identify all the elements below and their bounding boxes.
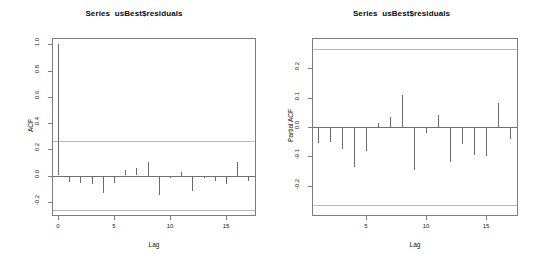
pacf-x-tick-mark bbox=[426, 216, 427, 220]
acf-x-tick-mark bbox=[170, 216, 171, 220]
acf-plot-title: Series usBest$residuals bbox=[0, 9, 268, 18]
pacf-x-tick-label: 15 bbox=[478, 223, 494, 229]
pacf-bar bbox=[462, 127, 463, 144]
pacf-bar bbox=[414, 127, 415, 170]
pacf-bar bbox=[330, 127, 331, 142]
figure-canvas: Series usBest$residuals Lag ACF 1.00.80.… bbox=[0, 0, 535, 272]
pacf-y-tick-label: -0.1 bbox=[294, 147, 300, 161]
pacf-bar bbox=[378, 123, 379, 127]
acf-y-tick-mark bbox=[48, 149, 52, 150]
pacf-bar bbox=[438, 115, 439, 127]
acf-bar bbox=[58, 44, 59, 175]
acf-x-tick-mark bbox=[226, 216, 227, 220]
acf-x-axis-title: Lag bbox=[134, 241, 174, 248]
acf-bar bbox=[237, 162, 238, 176]
acf-x-tick-label: 15 bbox=[218, 223, 234, 229]
pacf-x-tick-mark bbox=[486, 216, 487, 220]
acf-x-tick-mark bbox=[114, 216, 115, 220]
acf-bar bbox=[114, 176, 115, 183]
pacf-y-tick-label: 0.2 bbox=[294, 59, 300, 73]
acf-y-tick-label: 0.8 bbox=[34, 62, 40, 76]
acf-y-tick-mark bbox=[48, 176, 52, 177]
pacf-bar bbox=[342, 127, 343, 149]
acf-x-tick-label: 5 bbox=[106, 223, 122, 229]
acf-bar bbox=[204, 176, 205, 178]
acf-y-axis-title: ACF bbox=[27, 104, 34, 148]
acf-plot-panel: Series usBest$residuals Lag ACF 1.00.80.… bbox=[0, 0, 268, 272]
acf-bar bbox=[226, 176, 227, 184]
pacf-y-tick-label: 0.0 bbox=[294, 118, 300, 132]
acf-y-tick-label: 0.0 bbox=[34, 167, 40, 181]
pacf-y-tick-label: 0.1 bbox=[294, 89, 300, 103]
pacf-y-axis-title: Partial ACF bbox=[287, 104, 294, 148]
pacf-bar bbox=[486, 127, 487, 156]
pacf-plot-panel: Series usBest$residuals Lag Partial ACF … bbox=[268, 0, 535, 272]
acf-bar bbox=[136, 168, 137, 175]
acf-y-tick-mark bbox=[48, 71, 52, 72]
acf-bar bbox=[148, 162, 149, 176]
pacf-bar bbox=[474, 127, 475, 155]
pacf-y-tick-label: -0.2 bbox=[294, 177, 300, 191]
pacf-bar bbox=[510, 127, 511, 139]
acf-confidence-band-upper bbox=[53, 141, 255, 142]
acf-x-tick-label: 10 bbox=[162, 223, 178, 229]
acf-y-tick-label: 1.0 bbox=[34, 35, 40, 49]
acf-x-tick-mark bbox=[58, 216, 59, 220]
acf-bar bbox=[103, 176, 104, 193]
pacf-y-tick-mark bbox=[308, 127, 312, 128]
pacf-x-axis-title: Lag bbox=[395, 241, 435, 248]
pacf-y-tick-mark bbox=[308, 186, 312, 187]
pacf-y-tick-mark bbox=[308, 156, 312, 157]
pacf-x-tick-mark bbox=[366, 216, 367, 220]
acf-y-tick-mark bbox=[48, 202, 52, 203]
acf-bar bbox=[215, 176, 216, 181]
acf-bar bbox=[125, 170, 126, 175]
acf-y-tick-label: 0.2 bbox=[34, 140, 40, 154]
pacf-plot-title: Series usBest$residuals bbox=[268, 9, 535, 18]
acf-bar bbox=[170, 176, 171, 178]
acf-plot-area bbox=[53, 39, 255, 215]
acf-bar bbox=[159, 176, 160, 195]
acf-y-tick-label: 0.6 bbox=[34, 88, 40, 102]
acf-y-tick-mark bbox=[48, 97, 52, 98]
pacf-bar bbox=[366, 127, 367, 151]
acf-y-tick-mark bbox=[48, 44, 52, 45]
pacf-plot-area bbox=[313, 39, 517, 215]
acf-bar bbox=[80, 176, 81, 183]
pacf-bar bbox=[498, 103, 499, 127]
pacf-bar bbox=[450, 127, 451, 162]
acf-bar bbox=[92, 176, 93, 184]
acf-y-tick-mark bbox=[48, 123, 52, 124]
pacf-confidence-band-upper bbox=[313, 49, 517, 50]
pacf-y-tick-mark bbox=[308, 98, 312, 99]
pacf-confidence-band-lower bbox=[313, 205, 517, 206]
acf-bar bbox=[248, 176, 249, 181]
acf-bar bbox=[192, 176, 193, 191]
acf-bar bbox=[69, 176, 70, 182]
pacf-y-tick-mark bbox=[308, 68, 312, 69]
acf-y-tick-label: 0.4 bbox=[34, 114, 40, 128]
acf-bar bbox=[181, 172, 182, 176]
pacf-x-tick-label: 5 bbox=[358, 223, 374, 229]
pacf-bar bbox=[390, 117, 391, 127]
acf-y-tick-label: -0.2 bbox=[34, 193, 40, 207]
acf-x-tick-label: 0 bbox=[50, 223, 66, 229]
pacf-bar bbox=[402, 95, 403, 127]
pacf-x-tick-label: 10 bbox=[418, 223, 434, 229]
acf-confidence-band-lower bbox=[53, 210, 255, 211]
pacf-bar bbox=[354, 127, 355, 167]
pacf-bar bbox=[318, 127, 319, 143]
pacf-bar bbox=[426, 127, 427, 133]
acf-zero-line bbox=[53, 176, 255, 177]
